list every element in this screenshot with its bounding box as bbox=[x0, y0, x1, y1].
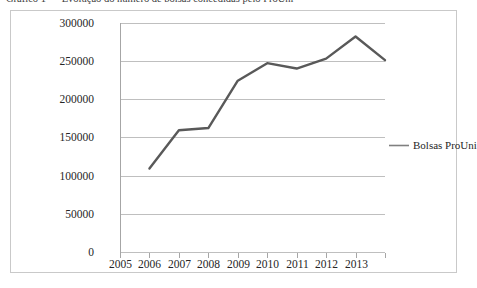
y-tick-label-200000: 200000 bbox=[16, 93, 94, 105]
series-line-bolsas-prouni bbox=[149, 36, 385, 168]
legend-entry-bolsas-prouni: Bolsas ProUni bbox=[413, 139, 477, 151]
x-tick-label-2013: 2013 bbox=[337, 258, 376, 270]
y-tick-label-150000: 150000 bbox=[16, 131, 94, 143]
gridlines bbox=[120, 24, 385, 253]
x-axis-ticks bbox=[121, 253, 386, 258]
y-tick-label-0: 0 bbox=[16, 246, 94, 258]
y-tick-label-250000: 250000 bbox=[16, 55, 94, 67]
y-tick-label-100000: 100000 bbox=[16, 170, 94, 182]
y-tick-label-50000: 50000 bbox=[16, 208, 94, 220]
y-tick-label-300000: 300000 bbox=[16, 17, 94, 29]
